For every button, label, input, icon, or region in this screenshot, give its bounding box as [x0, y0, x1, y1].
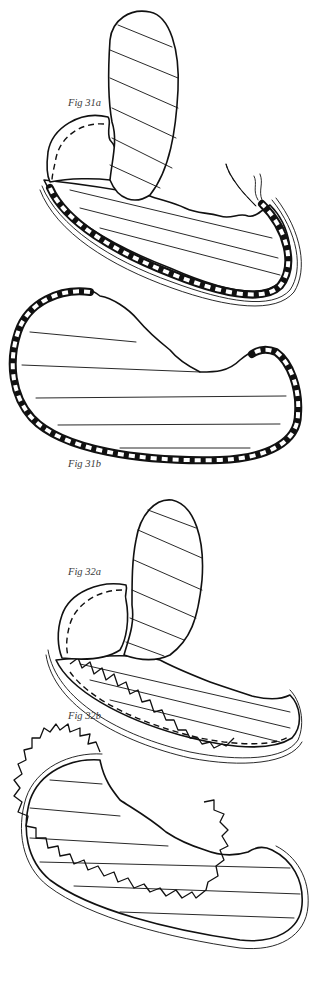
fig-32a-curl [58, 584, 127, 659]
fig-31b-label: Fig 31b [68, 458, 101, 469]
fig-31a-drawing [40, 11, 301, 306]
fig-32a-tongue [124, 500, 203, 660]
fig-32b-drawing [14, 724, 308, 949]
fig-31a-curl [47, 115, 117, 182]
fig-32a-label: Fig 32a [68, 566, 101, 577]
illustration [0, 0, 315, 984]
fig-32b-label: Fig 32b [68, 710, 101, 721]
fig-31a-label: Fig 31a [68, 97, 101, 108]
fig-32a-drawing [46, 500, 302, 763]
fig-31b-drawing [11, 289, 298, 460]
fig-31a-tongue [109, 11, 179, 200]
